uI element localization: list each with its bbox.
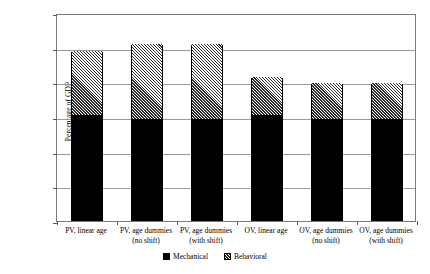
bar-segment-behavioral	[312, 83, 342, 120]
x-axis-category-label-line: (with shift)	[158, 236, 254, 246]
x-axis-tick-mark	[357, 221, 358, 225]
x-axis-tick-mark	[117, 221, 118, 225]
x-axis-tick-mark	[177, 221, 178, 225]
x-axis-category-label-line: OV, age dummies	[338, 226, 430, 236]
bar-chart: Percentage of GDP 0.06%0.05%0.04%0.03%0.…	[0, 0, 430, 274]
bar-segment-mechanical	[192, 120, 222, 220]
bar-segment-mechanical	[72, 116, 102, 220]
hatched-square-icon	[224, 253, 231, 260]
bar-group	[177, 15, 237, 221]
bar-segment-behavioral	[252, 77, 282, 116]
bar-segment-behavioral	[192, 44, 222, 120]
bar-segment-behavioral	[372, 83, 402, 120]
x-axis-tick-mark	[417, 221, 418, 225]
stacked-bar	[191, 45, 223, 221]
stacked-bar	[311, 84, 343, 221]
stacked-bar	[131, 45, 163, 221]
bar-group	[297, 15, 357, 221]
bar-segment-mechanical	[372, 120, 402, 220]
stacked-bar	[71, 52, 103, 221]
bars-layer	[57, 15, 415, 221]
stacked-bar	[371, 84, 403, 221]
bar-group	[117, 15, 177, 221]
x-axis-category-label-line: (with shift)	[338, 236, 430, 246]
solid-black-square-icon	[163, 253, 170, 260]
bar-segment-mechanical	[132, 120, 162, 220]
bar-group	[237, 15, 297, 221]
bar-segment-mechanical	[252, 116, 282, 220]
bar-segment-behavioral	[72, 51, 102, 116]
x-axis-tick-mark	[297, 221, 298, 225]
x-axis-tick-mark	[57, 221, 58, 225]
legend-item-mechanical: Mechanical	[163, 252, 208, 261]
legend-label-mechanical: Mechanical	[173, 252, 208, 261]
bar-segment-behavioral	[132, 44, 162, 120]
bar-segment-mechanical	[312, 120, 342, 220]
legend-label-behavioral: Behavioral	[234, 252, 267, 261]
plot-area: Percentage of GDP 0.06%0.05%0.04%0.03%0.…	[56, 14, 416, 222]
x-axis-tick-mark	[237, 221, 238, 225]
legend-item-behavioral: Behavioral	[224, 252, 267, 261]
stacked-bar	[251, 78, 283, 221]
bar-group	[57, 15, 117, 221]
legend: Mechanical Behavioral	[0, 252, 430, 261]
x-axis-category-label: OV, age dummies(with shift)	[338, 226, 430, 246]
bar-group	[357, 15, 417, 221]
